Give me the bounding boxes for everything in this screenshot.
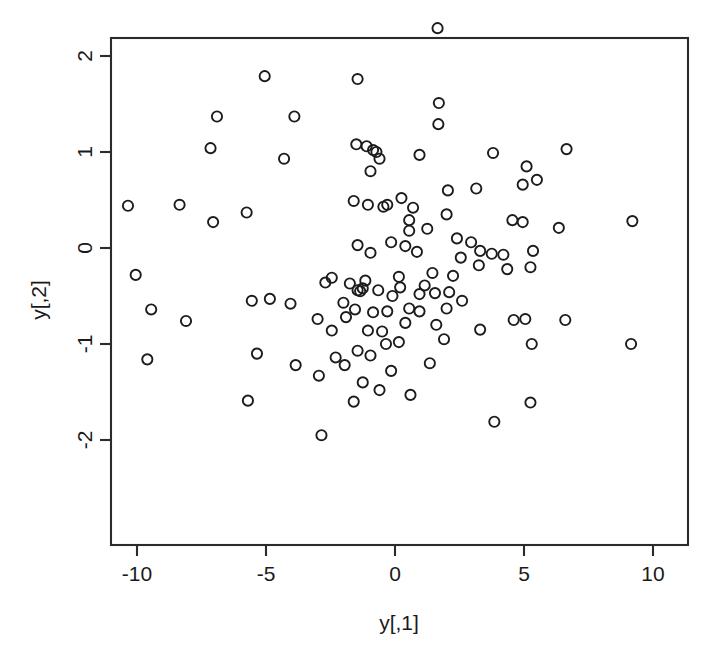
data-point	[444, 287, 454, 297]
data-point	[349, 397, 359, 407]
data-point	[561, 144, 571, 154]
data-point	[340, 360, 350, 370]
data-point	[374, 385, 384, 395]
data-point	[404, 215, 414, 225]
data-point	[507, 215, 517, 225]
data-point	[212, 111, 222, 121]
plot-canvas: -10-50510-2-10123 y[,1] y[,2]	[0, 0, 718, 651]
y-tick-label: -1	[73, 335, 96, 354]
y-tick-label: 1	[73, 146, 96, 158]
data-point	[457, 296, 467, 306]
data-point	[351, 139, 361, 149]
data-point	[442, 209, 452, 219]
data-point	[358, 377, 368, 387]
data-point	[208, 217, 218, 227]
data-point	[430, 288, 440, 298]
data-point	[146, 304, 156, 314]
data-point	[532, 175, 542, 185]
data-point	[123, 201, 133, 211]
data-point	[475, 325, 485, 335]
data-point	[242, 207, 252, 217]
data-point	[434, 98, 444, 108]
data-point	[408, 203, 418, 213]
data-point	[414, 306, 424, 316]
data-point	[626, 339, 636, 349]
data-point	[627, 216, 637, 226]
data-point	[338, 298, 348, 308]
data-points-group	[123, 0, 638, 440]
data-point	[265, 294, 275, 304]
y-tick-label: 0	[73, 242, 96, 254]
tick-labels-group: -10-50510-2-10123	[73, 0, 665, 585]
y-tick-label: 2	[73, 50, 96, 62]
data-point	[425, 358, 435, 368]
data-point	[412, 247, 422, 257]
data-point	[313, 314, 323, 324]
data-point	[368, 307, 378, 317]
data-point	[431, 320, 441, 330]
data-point	[527, 339, 537, 349]
data-point	[466, 237, 476, 247]
data-point	[285, 299, 295, 309]
data-point	[422, 224, 432, 234]
data-point	[400, 318, 410, 328]
y-tick-label: -2	[73, 431, 96, 450]
data-point	[518, 180, 528, 190]
data-point	[365, 248, 375, 258]
data-point	[377, 326, 387, 336]
data-point	[174, 200, 184, 210]
data-point	[327, 325, 337, 335]
data-point	[518, 217, 528, 227]
data-point	[525, 262, 535, 272]
data-point	[181, 316, 191, 326]
data-point	[243, 396, 253, 406]
data-point	[291, 360, 301, 370]
data-point	[142, 354, 152, 364]
data-point	[352, 346, 362, 356]
data-point	[352, 74, 362, 84]
data-point	[521, 161, 531, 171]
data-point	[404, 303, 414, 313]
data-point	[502, 264, 512, 274]
x-tick-label: 10	[641, 562, 664, 585]
data-point	[488, 148, 498, 158]
data-point	[475, 246, 485, 256]
data-point	[432, 23, 442, 33]
data-point	[427, 268, 437, 278]
data-point	[487, 249, 497, 259]
data-point	[365, 350, 375, 360]
data-point	[394, 337, 404, 347]
data-point	[341, 312, 351, 322]
x-axis-title: y[,1]	[379, 611, 419, 634]
y-axis-title: y[,2]	[27, 280, 50, 320]
data-point	[474, 260, 484, 270]
data-point	[433, 119, 443, 129]
data-point	[443, 185, 453, 195]
data-point	[247, 296, 257, 306]
data-point	[381, 339, 391, 349]
data-point	[350, 304, 360, 314]
data-point	[525, 397, 535, 407]
data-point	[394, 272, 404, 282]
data-point	[352, 240, 362, 250]
data-point	[471, 183, 481, 193]
data-point	[442, 303, 452, 313]
data-point	[498, 250, 508, 260]
data-point	[509, 315, 519, 325]
x-tick-label: 0	[389, 562, 401, 585]
data-point	[400, 241, 410, 251]
data-point	[252, 349, 262, 359]
data-point	[365, 166, 375, 176]
data-point	[414, 150, 424, 160]
data-point	[452, 233, 462, 243]
data-point	[554, 223, 564, 233]
data-point	[331, 352, 341, 362]
data-point	[387, 291, 397, 301]
data-point	[560, 315, 570, 325]
data-point	[205, 143, 215, 153]
scatter-plot-figure: -10-50510-2-10123 y[,1] y[,2]	[0, 0, 718, 651]
data-point	[456, 253, 466, 263]
data-point	[528, 246, 538, 256]
tick-marks-group	[100, 0, 653, 556]
x-tick-label: 5	[518, 562, 530, 585]
